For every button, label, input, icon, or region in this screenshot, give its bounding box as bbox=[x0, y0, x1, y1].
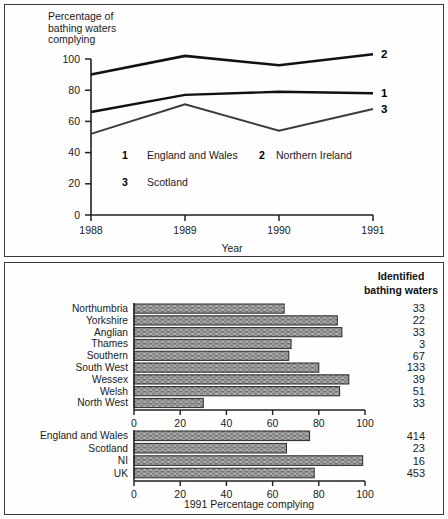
line-chart-ytick-100: 100 bbox=[62, 53, 80, 65]
bar-label-yorkshire: Yorkshire bbox=[86, 315, 128, 326]
bar-xtick-40: 40 bbox=[221, 417, 233, 429]
bar-label-southern: Southern bbox=[87, 350, 128, 361]
bar-chart-svg: Identified bathing waters Northumbria33Y… bbox=[5, 263, 443, 514]
line-series-northern-ireland bbox=[91, 54, 373, 74]
line-chart-x-axis-title: Year bbox=[221, 242, 243, 254]
line-chart-panel: Percentage of bathing waters complying 0… bbox=[4, 4, 444, 257]
bar-xtick-80: 80 bbox=[313, 417, 325, 429]
bar-uk bbox=[134, 468, 314, 478]
bar-label-ni: NI bbox=[118, 455, 128, 466]
bar-label-scotland: Scotland bbox=[88, 443, 128, 454]
bar-label-wessex: Wessex bbox=[92, 374, 128, 385]
line-chart-legend: 1 England and Wales 2 Northern Ireland 3… bbox=[122, 149, 352, 188]
bar-xtick-0: 0 bbox=[131, 488, 137, 500]
line-series-end-label-1: 1 bbox=[381, 87, 388, 99]
bar-scotland bbox=[134, 443, 286, 453]
side-value-north-west: 33 bbox=[413, 397, 425, 409]
bar-yorkshire bbox=[134, 316, 337, 325]
bar-label-south-west: South West bbox=[76, 362, 129, 373]
line-chart-xtick-1990: 1990 bbox=[267, 224, 291, 236]
bar-label-thames: Thames bbox=[91, 338, 128, 349]
side-column-header-line2: bathing waters bbox=[364, 284, 438, 296]
bar-xtick-0: 0 bbox=[131, 417, 137, 429]
line-chart-ytick-20: 20 bbox=[68, 177, 80, 189]
bar-label-anglian: Anglian bbox=[94, 327, 128, 338]
side-value-ni: 16 bbox=[413, 455, 425, 467]
bar-thames bbox=[134, 339, 291, 348]
bar-south-west bbox=[134, 363, 319, 372]
legend-label-scotland: Scotland bbox=[147, 176, 188, 188]
line-series-end-label-2: 2 bbox=[381, 48, 387, 60]
side-value-anglian: 33 bbox=[413, 326, 425, 338]
legend-key-2: 2 bbox=[259, 149, 265, 161]
side-value-england-and-wales: 414 bbox=[407, 430, 425, 442]
bar-chart-x-axis-title: 1991 Percentage complying bbox=[184, 498, 314, 510]
legend-label-northern-ireland: Northern Ireland bbox=[276, 149, 352, 161]
line-chart-xtick-1989: 1989 bbox=[173, 224, 197, 236]
bar-chart-upper-x-ticks: 020406080100 bbox=[131, 410, 374, 429]
side-value-northumbria: 33 bbox=[413, 302, 425, 314]
line-chart-ytick-0: 0 bbox=[74, 209, 80, 221]
side-value-welsh: 51 bbox=[413, 385, 425, 397]
bar-label-northumbria: Northumbria bbox=[72, 303, 128, 314]
side-value-south-west: 133 bbox=[407, 361, 425, 373]
bar-group-regions: Northumbria33Yorkshire22Anglian33Thames3… bbox=[72, 302, 425, 408]
bar-xtick-100: 100 bbox=[356, 488, 374, 500]
bar-wessex bbox=[134, 375, 349, 384]
bar-anglian bbox=[134, 328, 342, 337]
bar-label-north-west: North West bbox=[77, 397, 128, 408]
line-chart-ytick-60: 60 bbox=[68, 115, 80, 127]
side-value-scotland: 23 bbox=[413, 442, 425, 454]
legend-label-england-and-wales: England and Wales bbox=[147, 149, 238, 161]
line-series-england-and-wales bbox=[91, 92, 373, 112]
line-chart-y-axis-title: Percentage of bathing waters complying bbox=[48, 11, 116, 46]
bar-xtick-100: 100 bbox=[356, 417, 374, 429]
line-chart-ytick-40: 40 bbox=[68, 146, 80, 158]
line-series-scotland bbox=[91, 104, 373, 134]
bar-group-nations: England and Wales414Scotland23NI16UK453 bbox=[40, 430, 425, 479]
bar-label-england-and-wales: England and Wales bbox=[40, 430, 128, 441]
side-value-thames: 3 bbox=[419, 338, 425, 350]
side-column-header-line1: Identified bbox=[378, 270, 425, 282]
legend-key-1: 1 bbox=[122, 149, 128, 161]
bar-xtick-60: 60 bbox=[267, 417, 279, 429]
side-value-yorkshire: 22 bbox=[413, 314, 425, 326]
bar-southern bbox=[134, 351, 289, 360]
bar-ni bbox=[134, 456, 363, 466]
bar-xtick-20: 20 bbox=[174, 417, 186, 429]
line-chart-xtick-1988: 1988 bbox=[79, 224, 103, 236]
bar-north-west bbox=[134, 398, 203, 407]
bar-chart-panel: Identified bathing waters Northumbria33Y… bbox=[4, 262, 444, 515]
side-value-wessex: 39 bbox=[413, 373, 425, 385]
line-chart-ytick-80: 80 bbox=[68, 84, 80, 96]
bar-label-welsh: Welsh bbox=[100, 386, 128, 397]
side-value-southern: 67 bbox=[413, 350, 425, 362]
bar-northumbria bbox=[134, 304, 284, 313]
bar-label-uk: UK bbox=[114, 468, 128, 479]
bar-england-and-wales bbox=[134, 431, 310, 441]
figure-page: Percentage of bathing waters complying 0… bbox=[0, 0, 448, 519]
line-chart-y-ticks: 0 20 40 60 80 100 bbox=[62, 53, 91, 221]
line-chart-xtick-1991: 1991 bbox=[361, 224, 385, 236]
bar-xtick-80: 80 bbox=[313, 488, 325, 500]
side-value-uk: 453 bbox=[407, 467, 425, 479]
line-chart-x-ticks: 1988 1989 1990 1991 bbox=[79, 215, 385, 236]
legend-key-3: 3 bbox=[122, 176, 128, 188]
line-series-end-label-3: 3 bbox=[381, 103, 387, 115]
bar-welsh bbox=[134, 387, 340, 396]
